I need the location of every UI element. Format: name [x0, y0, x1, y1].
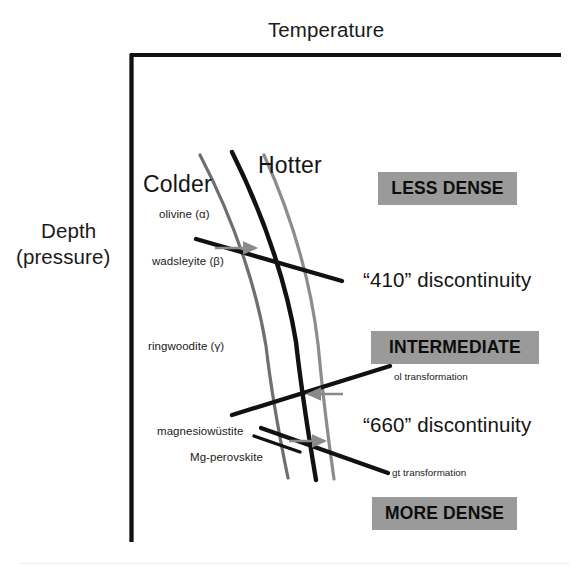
mineral-label-ringwoodite: ringwoodite (γ) [148, 341, 224, 353]
mineral-label-mg-perovskite: Mg-perovskite [190, 452, 263, 464]
mineral-label-olivine: olivine (α) [159, 209, 210, 221]
density-badge-intermediate: INTERMEDIATE [371, 331, 539, 364]
scan-artifact-rule [18, 563, 570, 564]
mineral-label-wadsleyite: wadsleyite (β) [152, 256, 224, 268]
y-axis-title-line1: Depth [41, 221, 96, 242]
mineral-label-magnesiowustite: magnesiowüstite [157, 426, 243, 438]
y-axis-title-line2: (pressure) [16, 247, 110, 268]
label-discontinuity-660: “660” discontinuity [363, 415, 531, 436]
label-gt-transformation: gt transformation [392, 468, 466, 478]
label-discontinuity-410: “410” discontinuity [363, 270, 531, 291]
geotherm-label-hotter: Hotter [258, 154, 322, 177]
density-badge-less-dense: LESS DENSE [378, 172, 517, 205]
geotherm-label-colder: Colder [143, 173, 212, 196]
label-ol-transformation: ol transformation [394, 372, 468, 382]
boundary-line-ol-transformation [232, 366, 390, 415]
phase-diagram-figure: Temperature Depth (pressure) Colder Hott… [0, 0, 583, 574]
x-axis-title: Temperature [268, 20, 384, 41]
axis-lines [130, 54, 561, 542]
density-badge-more-dense: MORE DENSE [372, 497, 517, 530]
geotherm-curve-hotter [264, 155, 334, 479]
